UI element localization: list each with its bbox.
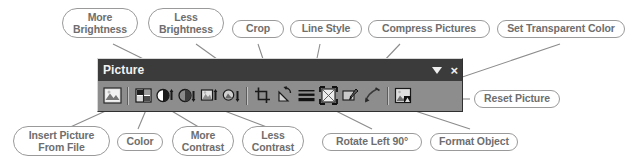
picture-toolbar[interactable]: Picture × — [97, 58, 463, 112]
callout-rotate-left-90: Rotate Left 90° — [322, 133, 422, 151]
line-style-button[interactable] — [296, 86, 316, 106]
more-brightness-button[interactable] — [199, 86, 219, 106]
callout-less-contrast: Less Contrast — [242, 126, 304, 156]
toolbar-title-label: Picture — [103, 63, 144, 77]
callout-compress-pictures: Compress Pictures — [368, 20, 490, 38]
callout-format-object: Format Object — [430, 133, 518, 151]
insert-picture-from-file-button[interactable] — [102, 86, 122, 106]
callout-color: Color — [117, 133, 163, 151]
screenshot-root: More Brightness Less Brightness Crop Lin… — [0, 0, 628, 163]
reset-picture-button[interactable] — [393, 86, 413, 106]
callout-line-style: Line Style — [290, 20, 362, 38]
less-contrast-button[interactable] — [177, 86, 197, 106]
color-button[interactable] — [133, 86, 153, 106]
format-object-button[interactable] — [340, 86, 360, 106]
callout-insert-picture-from-file: Insert Picture From File — [13, 126, 110, 156]
toolbar-icon-row — [98, 81, 462, 110]
callout-set-transparent-color: Set Transparent Color — [497, 20, 625, 38]
toolbar-title-controls: × — [432, 59, 458, 81]
callout-more-brightness: More Brightness — [62, 8, 138, 38]
less-brightness-button[interactable] — [221, 86, 241, 106]
toolbar-separator — [387, 87, 389, 105]
callout-reset-picture: Reset Picture — [474, 90, 560, 108]
toolbar-separator — [127, 87, 129, 105]
crop-button[interactable] — [252, 86, 272, 106]
callout-less-brightness: Less Brightness — [148, 8, 224, 38]
rotate-left-90-button[interactable] — [274, 86, 294, 106]
toolbar-options-dropdown-icon[interactable] — [432, 67, 442, 74]
callout-crop: Crop — [232, 20, 284, 38]
callout-more-contrast: More Contrast — [172, 126, 234, 156]
compress-pictures-button[interactable] — [318, 86, 338, 106]
leader-color — [138, 110, 146, 129]
toolbar-close-icon[interactable]: × — [450, 64, 458, 77]
set-transparent-color-button[interactable] — [362, 86, 382, 106]
toolbar-separator — [246, 87, 248, 105]
toolbar-title-bar[interactable]: Picture × — [98, 59, 462, 81]
more-contrast-button[interactable] — [155, 86, 175, 106]
